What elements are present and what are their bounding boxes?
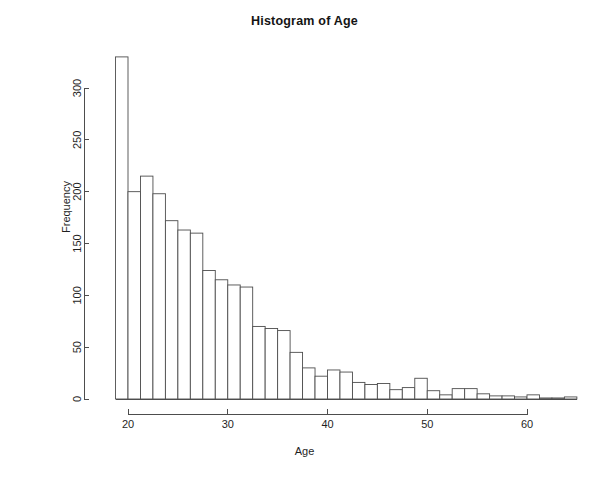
histogram-bar	[315, 376, 327, 399]
histogram-bar	[527, 395, 539, 399]
x-tick-label: 20	[122, 418, 134, 430]
y-tick-label: 50	[71, 341, 83, 353]
histogram-bar	[303, 368, 315, 399]
histogram-bar	[352, 382, 364, 399]
histogram-bar	[253, 326, 265, 399]
histogram-bar	[290, 352, 302, 399]
histogram-bar	[140, 176, 152, 399]
histogram-bar	[452, 389, 464, 399]
histogram-bar	[415, 378, 427, 399]
x-axis-label: Age	[0, 445, 609, 457]
histogram-bar	[203, 270, 215, 399]
histogram-plot: Histogram of Age 05010015020025030020304…	[0, 0, 609, 482]
histogram-bar	[427, 391, 439, 399]
histogram-bar	[377, 383, 389, 399]
histogram-bar	[278, 331, 290, 399]
y-tick-label: 300	[71, 79, 83, 97]
histogram-bar	[265, 329, 277, 399]
histogram-bar	[402, 388, 414, 399]
histogram-bar	[128, 192, 140, 399]
y-axis-label: Frequency	[60, 167, 72, 247]
bars-layer	[116, 57, 577, 399]
y-tick-label: 150	[71, 234, 83, 252]
y-tick-label: 0	[71, 396, 83, 402]
histogram-bar	[240, 287, 252, 399]
histogram-bar	[178, 230, 190, 399]
histogram-bar	[465, 389, 477, 399]
histogram-bar	[228, 285, 240, 399]
histogram-bar	[153, 194, 165, 399]
histogram-bar	[477, 394, 489, 399]
x-tick-label: 30	[222, 418, 234, 430]
histogram-bar	[390, 390, 402, 399]
histogram-bar	[116, 57, 128, 399]
histogram-bar	[165, 221, 177, 399]
y-tick-label: 200	[71, 182, 83, 200]
histogram-bar	[190, 233, 202, 399]
histogram-bar	[328, 370, 340, 399]
y-tick-label: 250	[71, 131, 83, 149]
plot-canvas: 0501001502002503002030405060	[0, 0, 609, 482]
histogram-bar	[440, 395, 452, 399]
histogram-bar	[365, 384, 377, 399]
histogram-bar	[215, 280, 227, 399]
x-tick-label: 50	[421, 418, 433, 430]
x-tick-label: 40	[321, 418, 333, 430]
histogram-bar	[340, 372, 352, 399]
x-tick-label: 60	[521, 418, 533, 430]
y-tick-label: 100	[71, 286, 83, 304]
